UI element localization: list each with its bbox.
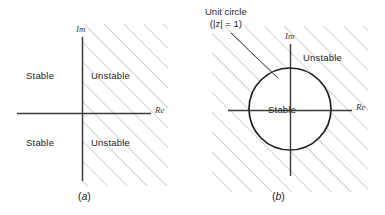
figure-stability-regions: Im Re Stable Unstable Stable Unstable (a…: [0, 0, 385, 215]
panel-b-caption-paren-close: ): [281, 190, 285, 202]
panel-a-imaginary-axis-label: Im: [76, 24, 86, 34]
panel-b-imaginary-axis-label: Im: [285, 31, 295, 41]
panel-b-region-label-stable: Stable: [268, 104, 296, 115]
unit-circle-callout: Unit circle (|z| = 1): [205, 6, 247, 30]
panel-a-caption: (a): [78, 190, 91, 202]
panel-a-region-label-stable-lower: Stable: [26, 137, 54, 148]
panel-b-caption: (b): [272, 190, 285, 202]
panel-a-region-label-unstable-upper: Unstable: [91, 70, 130, 81]
panel-a-group: [17, 24, 168, 186]
unit-circle-callout-line2: (|z| = 1): [205, 18, 247, 30]
panel-b-region-label-unstable: Unstable: [303, 52, 342, 63]
figure-vector-canvas: [0, 0, 385, 215]
panel-a-region-label-unstable-lower: Unstable: [91, 137, 130, 148]
unit-circle-callout-line1: Unit circle: [205, 6, 247, 18]
panel-a-region-label-stable-upper: Stable: [26, 70, 54, 81]
panel-a-real-axis-label: Re: [155, 105, 165, 115]
panel-b-real-axis-label: Re: [356, 102, 366, 112]
panel-a-caption-paren-close: ): [87, 190, 91, 202]
